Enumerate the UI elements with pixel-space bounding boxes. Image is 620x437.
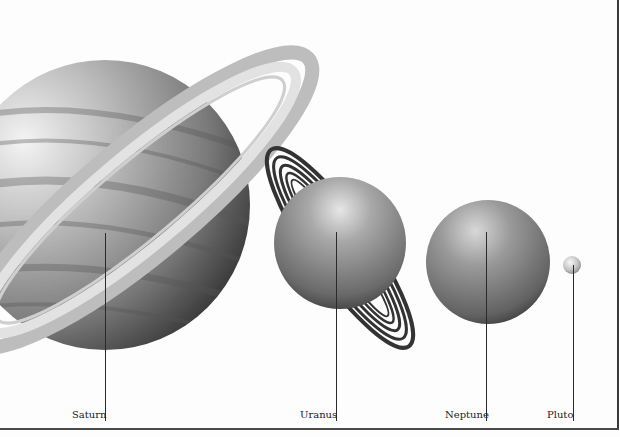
pluto-leader-line: [573, 265, 574, 421]
uranus-leader-line: [336, 232, 337, 421]
planet-diagram: Saturn Uranus Neptune Pluto: [0, 0, 620, 437]
planets-illustration: [0, 0, 620, 437]
frame-bottom-border: [0, 428, 619, 430]
saturn-label: Saturn: [72, 409, 107, 421]
neptune-leader-line: [486, 232, 487, 421]
uranus-label: Uranus: [300, 409, 337, 421]
neptune-label: Neptune: [445, 409, 489, 421]
pluto-label: Pluto: [547, 409, 573, 421]
frame-right-border: [617, 0, 619, 430]
uranus-planet: [247, 132, 434, 363]
pluto-planet: [563, 256, 581, 274]
neptune-planet: [426, 200, 550, 324]
saturn-leader-line: [105, 233, 106, 421]
